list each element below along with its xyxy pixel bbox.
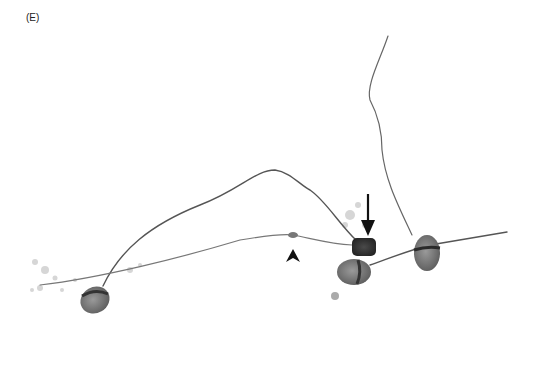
sperm-cell-bottom-left (76, 281, 115, 319)
down-arrow-icon (361, 194, 375, 236)
midpiece-bulge (288, 232, 298, 238)
sperm-cell-middle (337, 259, 371, 285)
sperm-cell-dark (352, 238, 376, 256)
debris (30, 202, 368, 300)
sperm-cell-right (414, 235, 440, 271)
arrowhead-icon (286, 249, 300, 262)
micrograph (0, 0, 537, 372)
